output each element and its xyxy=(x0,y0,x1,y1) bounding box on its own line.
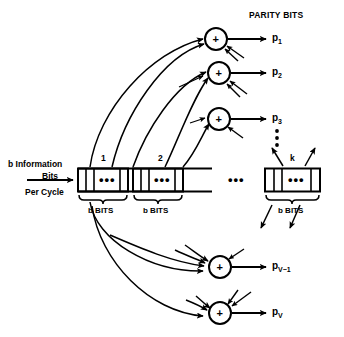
block-number-k: k xyxy=(290,154,295,163)
adder-2-plus-symbol: + xyxy=(216,68,222,79)
output-label-pv: pV xyxy=(272,307,283,319)
cell-ellipsis-block-k: ••• xyxy=(288,173,305,186)
adder-v-minus-1-plus-symbol: + xyxy=(217,262,223,273)
output-label-p1: p1 xyxy=(272,33,282,45)
block-number-1: 1 xyxy=(101,154,106,163)
b-bits-label-2: b BITS xyxy=(143,207,168,215)
output-label-p2: p2 xyxy=(272,67,282,79)
vertical-ellipsis-dots xyxy=(275,129,279,147)
block-number-2: 2 xyxy=(158,154,163,163)
parity-bits-title: PARITY BITS xyxy=(249,11,303,20)
block-gap-ellipsis: ••• xyxy=(228,173,245,186)
output-sub-pv-minus-1: V−1 xyxy=(278,266,291,273)
b-bits-label-k: b BITS xyxy=(278,207,303,215)
brace-block-k xyxy=(266,195,319,204)
cell-ellipsis-block-1: ••• xyxy=(99,173,116,186)
input-label-line3: Per Cycle xyxy=(25,188,64,197)
b-bits-label-1: b BITS xyxy=(88,207,113,215)
output-label-p3: p3 xyxy=(272,113,282,125)
parity-bit-generator-diagram: PARITY BITS b Information Bits Per Cycle… xyxy=(0,0,344,337)
brace-block-1 xyxy=(79,195,127,204)
tap-lines-upper xyxy=(90,39,209,167)
output-label-pv-minus-1: pV−1 xyxy=(272,261,291,273)
input-label-line1: b Information xyxy=(8,160,62,169)
tap-stubs-upper xyxy=(179,76,205,123)
brace-block-2 xyxy=(134,195,182,204)
output-sub-p2: 2 xyxy=(278,72,282,79)
output-sub-pv: V xyxy=(278,312,283,319)
adder-3-plus-symbol: + xyxy=(216,114,222,125)
output-sub-p3: 3 xyxy=(278,118,282,125)
tap-lines-lower xyxy=(90,202,210,316)
output-sub-p1: 1 xyxy=(278,38,282,45)
adder-v-plus-symbol: + xyxy=(217,308,223,319)
input-label-line2: Bits xyxy=(42,172,58,181)
cell-ellipsis-block-2: ••• xyxy=(154,173,171,186)
adder-1-plus-symbol: + xyxy=(213,34,219,45)
tap-lines-block-k xyxy=(261,148,315,228)
